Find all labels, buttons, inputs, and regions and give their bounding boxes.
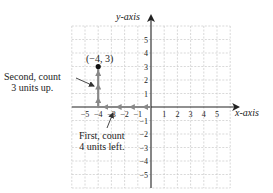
y-tick-label: 4 xyxy=(144,49,148,58)
plotted-point xyxy=(96,64,101,69)
x-tick-label: 1 xyxy=(162,110,166,119)
y-tick-label: −2 xyxy=(139,130,148,139)
first-step-annotation: First, count 4 units left. xyxy=(79,130,125,152)
x-tick-label: −4 xyxy=(94,110,103,119)
x-tick-label: −2 xyxy=(120,110,129,119)
axes xyxy=(72,16,238,188)
y-axis-label-text: y-axis xyxy=(116,11,140,22)
y-axis-label: y-axis xyxy=(116,11,140,22)
first-step-line2: 4 units left. xyxy=(79,141,125,152)
second-step-annotation: Second, count 3 units up. xyxy=(4,71,61,93)
point-coordinates: (−4, 3) xyxy=(86,53,113,64)
x-tick-label: 2 xyxy=(175,110,179,119)
y-tick-label: −4 xyxy=(139,157,148,166)
y-tick-label: 5 xyxy=(144,36,148,45)
x-tick-label: −5 xyxy=(81,110,90,119)
coordinate-plane: −5−4−3−2−11234554321−1−2−3−4−5 xyxy=(0,0,273,193)
y-tick-label: 2 xyxy=(144,76,148,85)
y-tick-label: −5 xyxy=(139,171,148,180)
y-tick-label: 1 xyxy=(144,90,148,99)
point-label: (−4, 3) xyxy=(86,53,113,64)
x-tick-label: 4 xyxy=(202,110,206,119)
x-tick-label: 5 xyxy=(215,110,219,119)
y-tick-label: −3 xyxy=(139,144,148,153)
y-tick-label: −1 xyxy=(139,117,148,126)
second-step-line2: 3 units up. xyxy=(4,82,61,93)
second-step-line1: Second, count xyxy=(4,71,61,82)
first-step-line1: First, count xyxy=(79,130,125,141)
counting-path xyxy=(96,64,151,107)
coordinate-plane-diagram: −5−4−3−2−11234554321−1−2−3−4−5 y-axis x-… xyxy=(0,0,273,193)
y-tick-label: 3 xyxy=(144,63,148,72)
x-axis-label-text: x-axis xyxy=(235,107,259,118)
x-tick-label: 3 xyxy=(189,110,193,119)
x-axis-label: x-axis xyxy=(235,107,259,118)
